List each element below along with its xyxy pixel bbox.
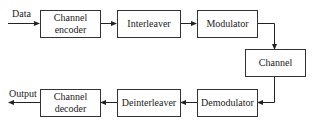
block-label: Modulator bbox=[206, 18, 248, 30]
block-label: Deinterleaver bbox=[122, 97, 176, 109]
block-label: Channel bbox=[259, 57, 292, 69]
arrow-channel-to-demodulator bbox=[258, 76, 275, 103]
block-label: Channel encoder bbox=[51, 12, 91, 36]
block-label: Demodulator bbox=[201, 97, 254, 109]
block-demodulator: Demodulator bbox=[197, 89, 258, 117]
arrow-modulator-to-channel bbox=[257, 24, 275, 50]
block-channel-decoder: Channel decoder bbox=[40, 89, 101, 117]
block-channel-encoder: Channel encoder bbox=[40, 10, 101, 38]
block-deinterleaver: Deinterleaver bbox=[117, 89, 181, 117]
input-label: Data bbox=[12, 8, 31, 20]
block-label: Interleaver bbox=[127, 18, 170, 30]
block-interleaver: Interleaver bbox=[117, 10, 181, 38]
output-label: Output bbox=[9, 88, 37, 100]
block-modulator: Modulator bbox=[197, 10, 258, 38]
block-channel: Channel bbox=[245, 49, 306, 77]
block-label: Channel decoder bbox=[51, 91, 91, 115]
